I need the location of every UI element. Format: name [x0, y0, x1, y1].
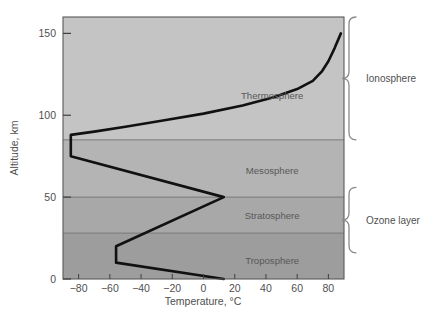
y-tick-label: 50 [44, 191, 56, 203]
layer-band-thermosphere [63, 17, 344, 140]
y-axis-title: Altitude, km [8, 120, 20, 175]
atmospheric-layer-bands [63, 17, 344, 279]
bracket-label-ozone-layer: Ozone layer [366, 215, 421, 226]
layer-label-thermosphere: Thermosphere [241, 90, 303, 101]
atmosphere-temperature-chart: −80−60−40−20020406080 050100150 Troposph… [0, 0, 446, 325]
x-axis-title: Temperature, °C [165, 295, 242, 307]
x-axis-tick-labels: −80−60−40−20020406080 [70, 282, 335, 294]
x-tick-label: −80 [70, 282, 88, 294]
x-tick-label: −20 [163, 282, 181, 294]
x-tick-label: 80 [323, 282, 335, 294]
x-tick-label: −40 [132, 282, 150, 294]
layer-label-mesosphere: Mesosphere [246, 165, 299, 176]
x-tick-label: 0 [201, 282, 207, 294]
layer-label-troposphere: Troposphere [245, 255, 299, 266]
layer-band-troposphere [63, 233, 344, 279]
y-tick-label: 0 [50, 273, 56, 285]
x-tick-label: −60 [101, 282, 119, 294]
y-tick-label: 100 [38, 109, 56, 121]
layer-band-stratosphere [63, 197, 344, 233]
bracket-label-ionosphere: Ionosphere [366, 73, 416, 84]
y-tick-label: 150 [38, 27, 56, 39]
layer-label-stratosphere: Stratosphere [245, 210, 300, 221]
x-tick-label: 60 [291, 282, 303, 294]
layer-band-mesosphere [63, 140, 344, 197]
x-tick-label: 20 [229, 282, 241, 294]
x-tick-label: 40 [260, 282, 272, 294]
